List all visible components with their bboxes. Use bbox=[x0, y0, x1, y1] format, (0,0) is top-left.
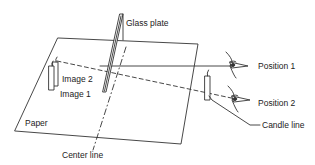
image-1-candle bbox=[49, 66, 54, 90]
eye-position-1-icon bbox=[226, 52, 248, 78]
paper-label: Paper bbox=[25, 119, 48, 128]
eye-position-2-icon bbox=[228, 86, 250, 112]
position-2-label: Position 2 bbox=[258, 99, 295, 108]
center-line-label: Center line bbox=[62, 151, 103, 160]
candle-flame bbox=[207, 70, 208, 76]
image-1-label: Image 1 bbox=[60, 90, 91, 99]
image-2-label: Image 2 bbox=[62, 75, 93, 84]
glass-plate-label: Glass plate bbox=[126, 19, 169, 28]
candle-line-label: Candle line bbox=[262, 121, 305, 130]
position-1-label: Position 1 bbox=[258, 62, 295, 71]
